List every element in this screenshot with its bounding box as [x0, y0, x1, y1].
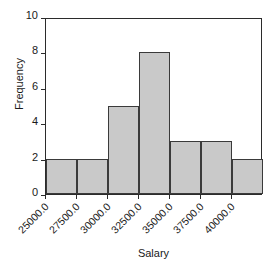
y-axis-title: Frequency	[13, 34, 25, 134]
y-axis-tick-label: 4	[32, 116, 38, 127]
x-axis-tick-mark	[45, 195, 46, 199]
x-axis-tick-mark	[76, 195, 77, 199]
y-axis-tick: 2	[0, 160, 45, 161]
x-axis-tick-mark	[138, 195, 139, 199]
x-axis-tick-label: 35000.0	[140, 201, 175, 236]
histogram-bar	[108, 106, 139, 195]
bar-group	[46, 19, 261, 194]
y-axis-tick: 0	[0, 195, 45, 196]
y-axis-tick-label: 8	[32, 45, 38, 56]
x-axis-tick-label: 27500.0	[47, 201, 82, 236]
x-axis-tick-label: 32500.0	[109, 201, 144, 236]
histogram-bar	[201, 141, 232, 194]
histogram-figure: Frequency 0246810 25000.027500.030000.03…	[0, 0, 277, 272]
x-axis-tick-mark	[169, 195, 170, 199]
y-axis-tick-label: 0	[32, 187, 38, 198]
x-axis-title: Salary	[45, 247, 262, 259]
x-axis-tick-label: 25000.0	[16, 201, 51, 236]
y-axis-tick: 4	[0, 124, 45, 125]
plot-area	[45, 18, 262, 195]
x-axis-tick-label: 40000.0	[202, 201, 237, 236]
histogram-bar	[46, 159, 77, 194]
y-axis-tick: 8	[0, 53, 45, 54]
y-axis-tick-label: 2	[32, 152, 38, 163]
x-axis-tick-label: 30000.0	[78, 201, 113, 236]
x-axis-tick-label: 37500.0	[171, 201, 206, 236]
histogram-bar	[170, 141, 201, 194]
y-axis-tick: 6	[0, 89, 45, 90]
y-axis-tick-label: 6	[32, 81, 38, 92]
histogram-bar	[139, 52, 170, 194]
x-axis-tick-mark	[107, 195, 108, 199]
histogram-bar	[77, 159, 108, 194]
x-axis-tick-mark	[231, 195, 232, 199]
x-axis-tick-mark	[200, 195, 201, 199]
histogram-bar	[232, 159, 263, 194]
y-axis-tick: 10	[0, 18, 45, 19]
y-axis-tick-label: 10	[26, 10, 38, 21]
